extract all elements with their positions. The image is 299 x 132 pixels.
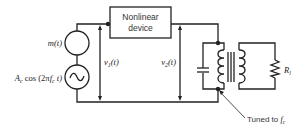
carrier-source-label: Ac cos (2πfc t) (14, 73, 62, 84)
v2-label: v2(t) (161, 57, 176, 68)
v1-label: v1(t) (104, 57, 119, 68)
junction-dot (106, 22, 110, 26)
v2-arrow-head-down (178, 96, 182, 101)
tuned-annotation: Tuned to fc (247, 115, 286, 125)
v1-arrow-head-down (98, 96, 102, 101)
sine-wave-icon (70, 73, 84, 80)
bottom-wire (77, 89, 218, 102)
message-source-icon (65, 31, 89, 55)
v1-arrow-head-up (98, 25, 102, 30)
top-left-wire (77, 24, 110, 31)
device-label-line1: Nonlinear (122, 12, 159, 22)
junction-dot (216, 41, 220, 45)
annotation-arrow-head (219, 90, 224, 95)
tank-left-wire (203, 43, 218, 68)
load-resistor-label: Rl (283, 65, 291, 76)
annotation-leader (220, 92, 245, 118)
junction-dot (216, 87, 220, 91)
tank-left-wire-bottom (203, 73, 218, 89)
v2-arrow-head-up (178, 25, 182, 30)
am-modulator-circuit: Nonlinear device m(t) Ac cos (2πfc t) v1… (0, 0, 299, 132)
message-source-label: m(t) (48, 38, 62, 48)
primary-coil-icon (218, 50, 224, 83)
device-output-wire (171, 24, 218, 43)
device-label-line2: device (128, 23, 153, 33)
resistor-icon (271, 60, 279, 78)
secondary-coil-icon (239, 50, 245, 83)
